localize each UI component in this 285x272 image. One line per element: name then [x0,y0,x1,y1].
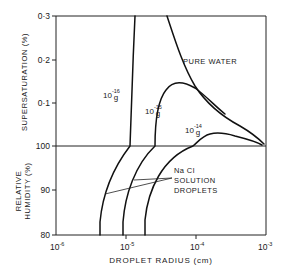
svg-text:10-4: 10-4 [190,241,204,252]
label-1e-14-g: 10-14g [185,123,202,137]
ytick-0-3: 0·3 [38,11,51,21]
label-1e-15-g: 10-15g [145,104,162,118]
x-axis-label: DROPLET RADIUS (cm) [109,256,213,265]
svg-text:10-5: 10-5 [120,241,134,252]
svg-text:SOLUTION: SOLUTION [174,176,216,185]
y-tick-labels: 0·3 0·2 0·1 100 90 80 [36,11,50,240]
upper-y-ticks [52,16,56,235]
nacl-pointer-lines [105,178,172,194]
ytick-80: 80 [41,230,51,240]
x-ticks [126,235,196,239]
label-1e-16-g: 10-16g [103,88,120,102]
svg-text:Na Cl: Na Cl [174,166,195,175]
ytick-100: 100 [36,141,50,151]
y-axis-label-lower-2: HUMIDITY (%) [23,162,32,219]
y-axis-label-lower-1: RELATIVE [14,171,23,212]
svg-text:10-3: 10-3 [258,241,272,252]
curve-1e-15-g [123,83,225,235]
svg-text:DROPLETS: DROPLETS [174,186,218,195]
y-axis-label-upper: SUPERSATURATION (%) [20,33,29,131]
ytick-90: 90 [41,185,51,195]
ytick-0-1: 0·1 [38,98,51,108]
label-pure-water: PURE WATER [183,57,237,66]
mass-labels: 10-16g 10-15g 10-14g [103,88,202,137]
ytick-0-2: 0·2 [38,55,51,65]
x-tick-labels: 10-6 10-5 10-4 10-3 [50,241,272,252]
curve-1e-16-g [100,16,135,235]
svg-text:10-6: 10-6 [50,241,64,252]
label-nacl-droplets: Na Cl SOLUTION DROPLETS [174,166,218,195]
kohler-curves-chart: 0·3 0·2 0·1 100 90 80 10-6 10-5 10-4 10-… [0,0,285,272]
plot-frame [56,16,266,235]
curve-pure-water [167,16,264,144]
